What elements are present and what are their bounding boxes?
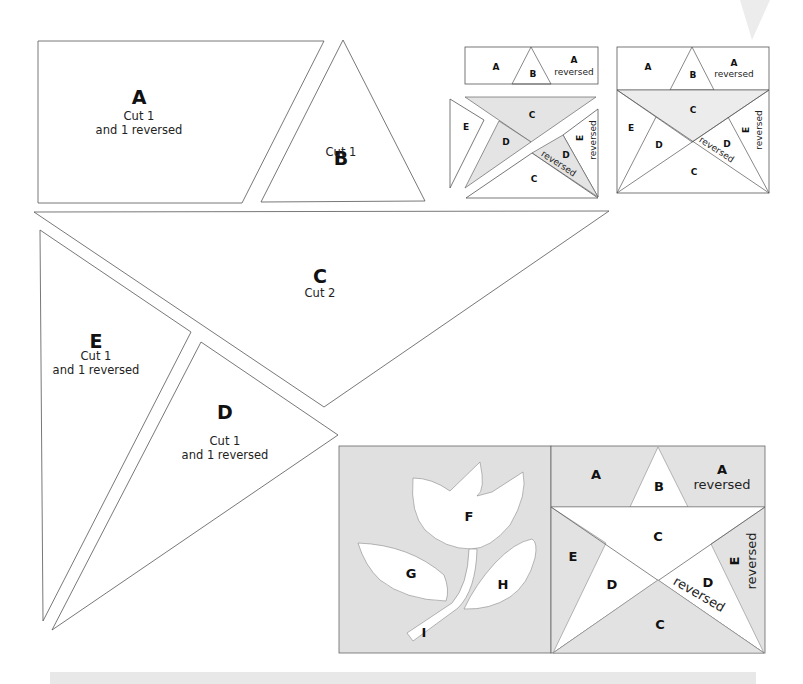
block-label-a-reversed: A	[731, 58, 738, 68]
tulip-block: F G H I	[339, 446, 551, 653]
label-g: G	[406, 566, 417, 581]
block-label-a: A	[645, 62, 652, 72]
label-f: F	[465, 509, 474, 524]
template-a-reversed: and 1 reversed	[96, 123, 183, 137]
template-c-cut: Cut 2	[305, 286, 336, 300]
star-label-b: B	[654, 479, 664, 494]
block-label-e-reversed: E	[741, 127, 751, 133]
template-e-cut: Cut 1	[81, 349, 112, 363]
template-c-letter: C	[313, 265, 327, 287]
star-label-c-bottom: C	[655, 617, 665, 632]
star-label-e: E	[569, 549, 578, 564]
label-c-top: C	[529, 110, 536, 120]
assembly-small-exploded: E C D D reversed E reversed C	[450, 97, 598, 198]
block-label-d: D	[655, 140, 662, 150]
block-label-c-top: C	[690, 105, 697, 115]
assembly-small-top-row: A B A reversed	[465, 47, 598, 84]
label-a: A	[493, 62, 500, 72]
star-block: A B A reversed C E D D reversed E revers…	[551, 446, 765, 653]
label-c-bottom: C	[531, 174, 538, 184]
star-label-d: D	[607, 577, 618, 592]
star-label-a: A	[591, 467, 601, 482]
label-reversed: reversed	[554, 67, 594, 77]
block-label-e-reversed-sub: reversed	[754, 110, 764, 150]
template-b-cut: Cut 1	[326, 145, 357, 159]
block-label-a-reversed-sub: reversed	[714, 69, 754, 79]
star-label-c-top: C	[653, 529, 663, 544]
label-b: B	[530, 69, 537, 79]
label-e-reversed: E	[575, 135, 585, 141]
caption-band	[50, 672, 756, 684]
block-label-b: B	[690, 70, 697, 80]
quilt-diagram: A Cut 1 and 1 reversed B Cut 1 C Cut 2 E…	[0, 0, 803, 684]
block-label-e: E	[628, 123, 634, 133]
template-d-reversed: and 1 reversed	[182, 448, 269, 462]
label-d-reversed: D	[562, 150, 569, 160]
label-a-reversed: A	[571, 55, 578, 65]
star-label-a-reversed: A	[717, 462, 727, 477]
template-d-letter: D	[217, 401, 233, 423]
template-a-letter: A	[132, 86, 147, 108]
label-d: D	[502, 137, 509, 147]
star-label-e-reversed: E	[727, 557, 742, 566]
template-a-cut: Cut 1	[124, 109, 155, 123]
assembly-block: A B A reversed C E D D reversed E revers…	[617, 47, 769, 193]
label-h: H	[498, 577, 509, 592]
template-e-reversed: and 1 reversed	[53, 363, 140, 377]
pencil-mark	[740, 0, 770, 40]
label-e-reversed-sub: reversed	[588, 120, 598, 160]
template-d-cut: Cut 1	[210, 434, 241, 448]
block-label-c-bottom: C	[691, 167, 698, 177]
label-i: I	[422, 625, 427, 640]
star-label-e-reversed-sub: reversed	[744, 532, 759, 589]
star-label-a-reversed-sub: reversed	[693, 477, 750, 492]
label-e: E	[463, 122, 469, 132]
